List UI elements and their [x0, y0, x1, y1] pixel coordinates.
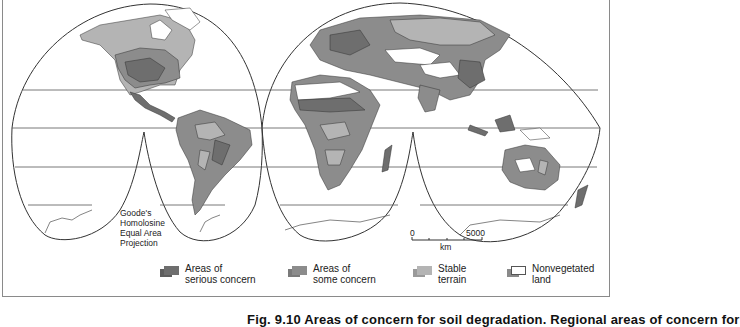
stable-terrain-swatch-icon: [413, 266, 432, 277]
legend-label-line: serious concern: [185, 274, 256, 285]
legend-item-nonvegetated: Nonvegetated land: [507, 263, 594, 285]
legend-label-line: Areas of: [313, 263, 376, 274]
projection-label-line: Equal Area: [120, 228, 165, 238]
south-america: [176, 110, 252, 215]
north-america: [80, 8, 200, 122]
legend-label: Areas of some concern: [313, 263, 376, 285]
legend-label-line: land: [532, 274, 594, 285]
legend-label-line: Areas of: [185, 263, 256, 274]
legend-label: Areas of serious concern: [185, 263, 256, 285]
projection-label-line: Goode's: [120, 208, 165, 218]
serious-concern-swatch-icon: [160, 266, 179, 277]
projection-label: Goode's Homolosine Equal Area Projection: [120, 208, 165, 248]
southeast-asia: [468, 115, 550, 140]
legend-item-stable-terrain: Stable terrain: [413, 263, 466, 285]
legend-item-some-concern: Areas of some concern: [288, 263, 376, 285]
figure-caption: Fig. 9.10 Areas of concern for soil degr…: [247, 312, 740, 327]
legend: Areas of serious concern Areas of some c…: [0, 263, 626, 293]
some-concern-swatch-icon: [288, 266, 307, 277]
legend-label: Nonvegetated land: [532, 263, 594, 285]
legend-label: Stable terrain: [438, 263, 466, 285]
australia: [502, 145, 588, 208]
legend-label-line: some concern: [313, 274, 376, 285]
scale-bar: 0 5000 km: [410, 228, 500, 254]
legend-label-line: terrain: [438, 274, 466, 285]
legend-label-line: Nonvegetated: [532, 263, 594, 274]
scale-ruler-icon: [410, 228, 500, 254]
scale-unit: km: [440, 242, 451, 252]
world-map: [0, 0, 626, 300]
projection-label-line: Projection: [120, 238, 165, 248]
nonvegetated-swatch-icon: [507, 266, 526, 277]
projection-label-line: Homolosine: [120, 218, 165, 228]
legend-item-serious-concern: Areas of serious concern: [160, 263, 256, 285]
africa: [290, 75, 392, 190]
legend-label-line: Stable: [438, 263, 466, 274]
